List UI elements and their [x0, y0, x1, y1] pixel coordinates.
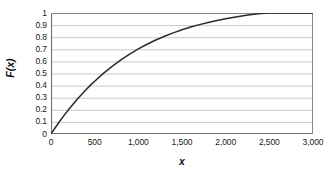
y-tick-label: 1	[3, 9, 47, 18]
x-tick-label: 500	[88, 137, 102, 147]
x-axis-tick-labels: 05001,0001,5002,0002,5003,000	[51, 137, 313, 151]
x-tick-label: 2,000	[215, 137, 236, 147]
x-tick-label: 2,500	[259, 137, 280, 147]
x-tick-label: 1,000	[128, 137, 149, 147]
x-axis-title: x	[51, 155, 313, 167]
y-tick-label: 0.1	[3, 117, 47, 126]
y-tick-label: 0.9	[3, 21, 47, 30]
exponential-cdf-chart: 00.10.20.30.40.50.60.70.80.91 F(x) 05001…	[0, 0, 333, 179]
plot-svg	[51, 13, 313, 134]
y-axis-title: F(x)	[4, 41, 16, 95]
gridlines	[51, 26, 313, 123]
x-tick-label: 1,500	[172, 137, 193, 147]
plot-area	[51, 13, 313, 134]
y-tick-label: 0	[3, 130, 47, 139]
x-tick-label: 3,000	[303, 137, 324, 147]
x-tick-label: 0	[49, 137, 54, 147]
y-tick-label: 0.2	[3, 105, 47, 114]
